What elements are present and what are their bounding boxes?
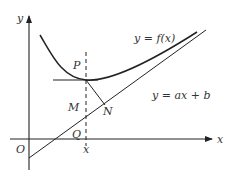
point-m-label: M	[67, 101, 80, 114]
point-n-label: N	[102, 105, 113, 118]
origin-label: O	[16, 143, 25, 156]
x-axis-label: x	[217, 133, 224, 146]
point-p-label: P	[72, 59, 81, 72]
point-q-label: Q	[72, 128, 81, 141]
line-label: y = ax + b	[151, 89, 210, 102]
y-axis-label: y	[16, 12, 24, 25]
curve-label: y = f(x)	[133, 32, 175, 45]
function-diagram: y x O y = f(x) y = ax + b P M N Q x	[0, 0, 235, 182]
x-tick-label: x	[83, 143, 90, 156]
segment-pn	[86, 80, 105, 105]
